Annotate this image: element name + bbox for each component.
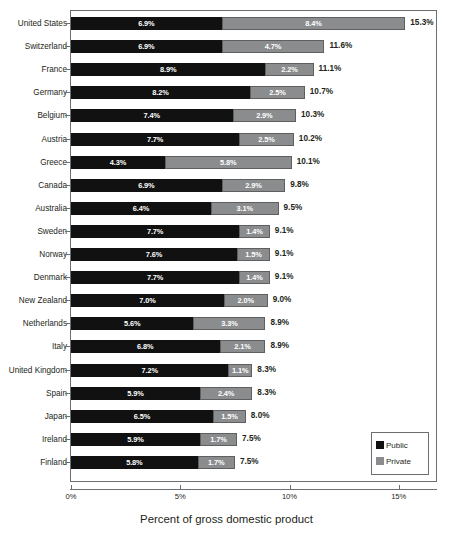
legend-item-public: Public (376, 437, 428, 453)
stacked-bar: 5.6%3.3% (71, 317, 265, 330)
category-tick-icon (65, 462, 70, 463)
bar-row: Netherlands5.6%3.3%8.9% (0, 317, 453, 340)
stacked-bar: 6.4%3.1% (71, 202, 279, 215)
bar-segment-public: 7.2% (71, 364, 228, 377)
category-tick-icon (65, 346, 70, 347)
x-axis-tick-label: 0% (66, 492, 77, 501)
stacked-bar: 8.9%2.2% (71, 63, 314, 76)
bar-segment-public: 6.9% (71, 40, 222, 53)
bar-segment-value-public: 7.4% (144, 111, 160, 120)
category-label: United States (0, 17, 67, 30)
bar-segment-value-private: 2.0% (238, 296, 254, 305)
bar-segment-value-public: 6.5% (134, 412, 150, 421)
bar-total-label: 10.2% (299, 134, 322, 143)
bar-segment-value-public: 5.9% (127, 389, 143, 398)
bar-total-label: 11.6% (329, 41, 352, 50)
bar-segment-public: 7.4% (71, 109, 233, 122)
category-label: Denmark (0, 271, 67, 284)
bar-segment-private: 2.9% (233, 109, 296, 122)
x-axis-tick-label: 5% (175, 492, 186, 501)
bar-row: Germany8.2%2.5%10.7% (0, 86, 453, 109)
stacked-bar: 6.8%2.1% (71, 340, 265, 353)
bar-row: Canada6.9%2.9%9.8% (0, 179, 453, 202)
category-label: Greece (0, 156, 67, 169)
bar-total-label: 15.3% (410, 18, 433, 27)
legend-label-private: Private (386, 457, 411, 466)
legend-swatch-private-icon (376, 457, 384, 465)
bar-row: Denmark7.7%1.4%9.1% (0, 271, 453, 294)
legend-label-public: Public (386, 441, 408, 450)
bar-total-label: 8.3% (257, 388, 276, 397)
bar-segment-private: 1.7% (200, 433, 237, 446)
bar-segment-value-private: 2.9% (256, 111, 272, 120)
bar-segment-public: 7.7% (71, 133, 239, 146)
bar-segment-private: 1.4% (239, 271, 270, 284)
category-label: Australia (0, 202, 67, 215)
bar-segment-private: 3.3% (193, 317, 265, 330)
bar-segment-value-private: 2.5% (269, 88, 285, 97)
category-label: New Zealand (0, 294, 67, 307)
bar-segment-private: 2.5% (239, 133, 294, 146)
bar-segment-private: 2.0% (224, 294, 268, 307)
bar-rows-container: United States6.9%8.4%15.3%Switzerland6.9… (0, 0, 453, 482)
category-tick-icon (65, 254, 70, 255)
chart-legend: Public Private (371, 432, 429, 475)
bar-total-label: 9.5% (284, 203, 303, 212)
category-tick-icon (65, 46, 70, 47)
x-axis-tick-icon (290, 485, 291, 490)
bar-segment-value-public: 5.9% (127, 435, 143, 444)
bar-segment-private: 1.5% (237, 248, 270, 261)
bar-segment-public: 5.8% (71, 456, 198, 469)
bar-segment-private: 1.7% (198, 456, 235, 469)
bar-total-label: 9.0% (273, 295, 292, 304)
x-axis-title: Percent of gross domestic product (0, 513, 453, 525)
bar-segment-public: 6.8% (71, 340, 220, 353)
bar-total-label: 9.1% (275, 249, 294, 258)
bar-segment-private: 2.2% (265, 63, 313, 76)
bar-segment-public: 6.9% (71, 179, 222, 192)
bar-segment-value-public: 6.8% (137, 342, 153, 351)
stacked-bar: 6.9%2.9% (71, 179, 285, 192)
bar-total-label: 8.9% (270, 341, 289, 350)
bar-segment-value-private: 1.7% (210, 435, 226, 444)
stacked-bar: 7.7%1.4% (71, 271, 270, 284)
legend-swatch-public-icon (376, 441, 384, 449)
bar-segment-value-public: 6.4% (133, 204, 149, 213)
bar-segment-value-private: 4.7% (265, 42, 281, 51)
category-label: Japan (0, 410, 67, 423)
bar-segment-public: 8.2% (71, 86, 250, 99)
bar-row: Austria7.7%2.5%10.2% (0, 133, 453, 156)
bar-row: Italy6.8%2.1%8.9% (0, 340, 453, 363)
stacked-bar: 6.9%8.4% (71, 17, 405, 30)
stacked-bar: 5.8%1.7% (71, 456, 235, 469)
bar-segment-public: 4.3% (71, 156, 165, 169)
x-axis-line (70, 489, 437, 490)
category-tick-icon (65, 115, 70, 116)
category-tick-icon (65, 92, 70, 93)
category-label: Belgium (0, 109, 67, 122)
bar-segment-private: 4.7% (222, 40, 325, 53)
category-label: United Kingdom (0, 364, 67, 377)
bar-segment-value-private: 3.3% (221, 319, 237, 328)
bar-total-label: 9.8% (290, 180, 309, 189)
bar-total-label: 10.3% (301, 110, 324, 119)
bar-segment-public: 5.9% (71, 387, 200, 400)
category-tick-icon (65, 439, 70, 440)
bar-segment-private: 2.1% (220, 340, 266, 353)
stacked-bar: 5.9%2.4% (71, 387, 252, 400)
x-axis-tick-icon (399, 485, 400, 490)
bar-total-label: 10.1% (297, 157, 320, 166)
bar-segment-value-public: 7.7% (147, 227, 163, 236)
x-axis-tick-label: 10% (282, 492, 297, 501)
category-label: Ireland (0, 433, 67, 446)
category-tick-icon (65, 139, 70, 140)
stacked-bar: 7.0%2.0% (71, 294, 268, 307)
x-axis-tick-icon (180, 485, 181, 490)
bar-total-label: 8.0% (251, 411, 270, 420)
bar-segment-value-private: 2.9% (245, 181, 261, 190)
bar-segment-value-public: 6.9% (138, 181, 154, 190)
bar-segment-public: 7.6% (71, 248, 237, 261)
bar-segment-value-private: 5.8% (220, 158, 236, 167)
bar-total-label: 8.9% (270, 318, 289, 327)
category-tick-icon (65, 208, 70, 209)
